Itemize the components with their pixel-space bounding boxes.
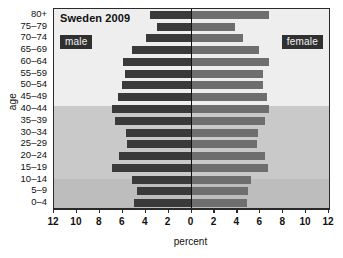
bar-male xyxy=(125,70,191,78)
x-axis-tick xyxy=(213,208,214,213)
y-axis-label: 10–14 xyxy=(21,174,47,184)
bar-female xyxy=(192,93,268,101)
y-axis-label: 15–19 xyxy=(21,162,47,172)
bar-male xyxy=(123,58,192,66)
x-axis-label: 0 xyxy=(188,216,194,227)
bar-male xyxy=(146,34,192,42)
x-axis-label: 12 xyxy=(322,216,333,227)
x-axis-label: 2 xyxy=(165,216,171,227)
bar-female xyxy=(192,117,265,125)
bar-male xyxy=(119,152,191,160)
bar-male xyxy=(126,129,191,137)
x-axis-tick xyxy=(282,208,283,213)
legend-female: female xyxy=(282,35,323,49)
x-axis-title: percent xyxy=(53,236,328,247)
bar-male xyxy=(115,117,192,125)
y-axis-tick-labels: 80+75–7970–7465–6960–6455–5950–5445–4940… xyxy=(0,8,49,208)
y-axis-label: 5–9 xyxy=(31,185,47,195)
bar-male xyxy=(127,140,191,148)
x-axis-tick xyxy=(99,208,100,213)
y-axis-label: 0–4 xyxy=(31,197,47,207)
bar-female xyxy=(192,140,257,148)
bar-female xyxy=(192,199,247,207)
bar-male xyxy=(132,176,192,184)
bar-female xyxy=(192,129,258,137)
y-axis-label: 30–34 xyxy=(21,127,47,137)
y-axis-label: 70–74 xyxy=(21,32,47,42)
bar-male xyxy=(157,23,191,31)
x-axis-label: 10 xyxy=(300,216,311,227)
plot-area: Sweden 2009 male female xyxy=(53,8,330,210)
y-axis-label: 75–79 xyxy=(21,21,47,31)
y-axis-label: 50–54 xyxy=(21,79,47,89)
x-axis-tick xyxy=(145,208,146,213)
y-axis-label: 35–39 xyxy=(21,115,47,125)
x-axis-label: 8 xyxy=(279,216,285,227)
y-axis-label: 80+ xyxy=(31,9,47,19)
x-axis-tick xyxy=(76,208,77,213)
x-axis-tick xyxy=(236,208,237,213)
x-axis xyxy=(53,208,328,214)
bar-female xyxy=(192,152,265,160)
bar-female xyxy=(192,70,263,78)
x-axis-tick xyxy=(191,208,192,213)
x-axis-tick xyxy=(122,208,123,213)
y-axis-label: 25–29 xyxy=(21,138,47,148)
x-axis-label: 6 xyxy=(119,216,125,227)
x-axis-tick xyxy=(168,208,169,213)
y-axis-label: 65–69 xyxy=(21,44,47,54)
x-axis-label: 10 xyxy=(70,216,81,227)
bar-female xyxy=(192,164,269,172)
x-axis-label: 6 xyxy=(256,216,262,227)
bar-female xyxy=(192,46,260,54)
bar-female xyxy=(192,176,252,184)
y-axis-label: 40–44 xyxy=(21,103,47,113)
bar-female xyxy=(192,187,248,195)
x-axis-tick xyxy=(53,208,54,213)
chart-title: Sweden 2009 xyxy=(60,12,130,24)
y-axis-label: 20–24 xyxy=(21,150,47,160)
bar-female xyxy=(192,34,244,42)
bar-male xyxy=(112,105,191,113)
bar-male xyxy=(118,93,191,101)
bar-female xyxy=(192,23,236,31)
bar-male xyxy=(122,81,192,89)
bar-male xyxy=(132,46,192,54)
x-axis-label: 4 xyxy=(234,216,240,227)
zero-axis-line xyxy=(191,9,192,209)
x-axis-tick xyxy=(328,208,329,213)
x-axis-label: 8 xyxy=(96,216,102,227)
x-axis-tick xyxy=(259,208,260,213)
x-axis-label: 2 xyxy=(211,216,217,227)
bar-male xyxy=(112,164,191,172)
x-axis-tick xyxy=(305,208,306,213)
population-pyramid-chart: age 80+75–7970–7465–6960–6455–5950–5445–… xyxy=(0,0,343,258)
bar-female xyxy=(192,58,270,66)
x-axis-label: 4 xyxy=(142,216,148,227)
x-axis-label: 12 xyxy=(47,216,58,227)
bar-female xyxy=(192,105,270,113)
bar-female xyxy=(192,81,263,89)
legend-male: male xyxy=(60,35,92,49)
bar-male xyxy=(150,11,191,19)
bar-male xyxy=(134,199,191,207)
y-axis-label: 45–49 xyxy=(21,91,47,101)
bar-female xyxy=(192,11,270,19)
y-axis-label: 55–59 xyxy=(21,68,47,78)
y-axis-label: 60–64 xyxy=(21,56,47,66)
bar-male xyxy=(137,187,192,195)
